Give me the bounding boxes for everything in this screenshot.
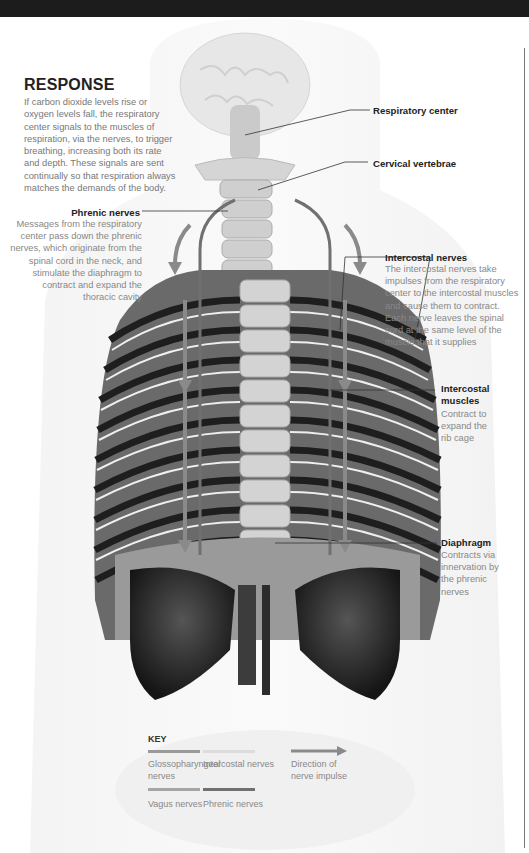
key-label-phrenic: Phrenic nerves — [203, 799, 263, 811]
key-label-intercostal: Intercostal nerves — [203, 759, 274, 771]
label-intercostal-muscles: Intercostal muscles — [441, 383, 501, 407]
label-intercostal-nerves: Intercostal nerves — [385, 252, 467, 263]
label-cervical-vertebrae: Cervical vertebrae — [373, 158, 456, 169]
section-title: RESPONSE — [24, 76, 115, 94]
diaphragm-description: Contracts via innervation by the phrenic… — [441, 549, 507, 598]
phrenic-nerves-description: Messages from the respiratory center pas… — [10, 218, 142, 303]
top-bar — [0, 0, 529, 17]
key-arrow-icon — [291, 746, 347, 756]
key-label-vagus: Vagus nerves — [148, 799, 202, 811]
key-title: KEY — [148, 734, 167, 744]
key-swatch-phrenic — [203, 788, 255, 791]
key-swatch-glossopharyngeal — [148, 750, 200, 753]
intro-paragraph: If carbon dioxide levels rise or oxygen … — [24, 96, 176, 194]
label-respiratory-center: Respiratory center — [373, 105, 458, 116]
frame-border — [524, 48, 525, 848]
key-swatch-intercostal — [203, 750, 255, 753]
intercostal-nerves-description: The intercostal nerves take impulses fro… — [385, 263, 520, 348]
key-label-direction: Direction of nerve impulse — [291, 759, 353, 782]
label-phrenic-nerves: Phrenic nerves — [20, 207, 140, 218]
intercostal-muscles-description: Contract to expand the rib cage — [441, 408, 493, 445]
label-diaphragm: Diaphragm — [441, 537, 491, 548]
key-swatch-vagus — [148, 788, 200, 791]
